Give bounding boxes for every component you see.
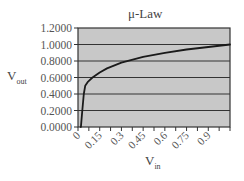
y-tick-label: 1.2000 xyxy=(40,22,72,34)
x-tick-label: 0.15 xyxy=(82,129,104,151)
x-tick-label: 0.3 xyxy=(108,129,127,148)
x-tick-label: 0 xyxy=(70,129,83,142)
y-tick-label: 0.6000 xyxy=(40,72,72,84)
x-tick-label: 0.45 xyxy=(125,129,147,151)
line-chart: 0.00000.20000.40000.60000.80001.00001.20… xyxy=(0,0,244,181)
x-tick-label: 0.75 xyxy=(169,129,191,151)
y-tick-label: 1.0000 xyxy=(40,39,72,51)
y-tick-label: 0.0000 xyxy=(40,121,72,133)
x-tick-label: 0.6 xyxy=(151,129,170,148)
x-tick-label: 0.9 xyxy=(194,129,213,148)
y-tick-label: 0.2000 xyxy=(40,105,72,117)
y-tick-label: 0.4000 xyxy=(40,88,72,100)
y-tick-label: 0.8000 xyxy=(40,55,72,67)
